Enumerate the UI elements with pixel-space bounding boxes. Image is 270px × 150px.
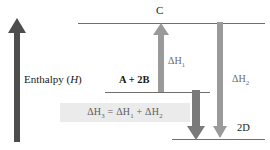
formula-t1: ΔH: [116, 106, 130, 117]
label-delta-h2-text: ΔH: [232, 73, 246, 84]
formula-box: ΔH3 = ΔH1 + ΔH2: [60, 103, 190, 122]
axis-label-enthalpy: Enthalpy (H): [24, 74, 82, 85]
formula-lhs: ΔH: [87, 106, 101, 117]
axis-label-enthalpy-text: Enthalpy (: [24, 73, 70, 85]
label-delta-h2: ΔH2: [232, 74, 249, 87]
enthalpy-diagram: Enthalpy (H) C A + 2B 2D ΔH1 ΔH2 ΔH3 = Δ…: [0, 0, 270, 150]
axis-label-enthalpy-symbol: H: [70, 73, 78, 85]
level-label-a-2b: A + 2B: [119, 75, 150, 86]
formula-text: ΔH3 = ΔH1 + ΔH2: [87, 106, 163, 120]
axis-label-enthalpy-paren: ): [78, 73, 82, 85]
label-delta-h1-sub: 1: [182, 61, 185, 68]
formula-t2: ΔH: [145, 106, 159, 117]
level-label-2d: 2D: [237, 123, 250, 134]
formula-plus: +: [134, 106, 145, 117]
arrow-delta-h2: [211, 22, 229, 139]
formula-eq: =: [105, 106, 116, 117]
level-line-c: [78, 23, 265, 24]
label-delta-h1-text: ΔH: [168, 55, 182, 66]
label-delta-h2-sub: 2: [246, 79, 249, 86]
formula-t2-sub: 2: [159, 112, 163, 119]
label-delta-h1: ΔH1: [168, 56, 185, 69]
level-label-c: C: [156, 5, 163, 16]
